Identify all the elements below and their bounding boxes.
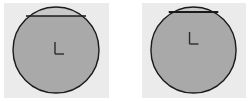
left-circular-segment-cap bbox=[4, 3, 109, 16]
left-panel-drawing bbox=[4, 3, 109, 98]
right-panel: L bbox=[142, 3, 246, 98]
right-panel-drawing bbox=[142, 3, 246, 98]
figure-container: L L bbox=[0, 0, 251, 101]
left-panel: L bbox=[4, 3, 109, 98]
